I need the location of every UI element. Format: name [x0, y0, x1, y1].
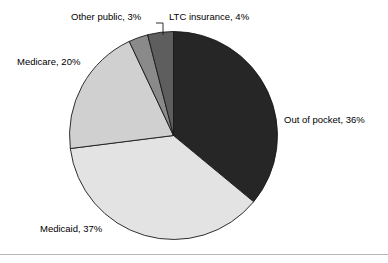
pie-label-ltc-insurance: LTC insurance, 4% [169, 11, 250, 22]
pie-label-out-of-pocket: Out of pocket, 36% [284, 114, 365, 125]
pie-chart-figure: Out of pocket, 36% Medicaid, 37% Medicar… [0, 0, 388, 263]
pie-label-medicaid: Medicaid, 37% [40, 223, 103, 234]
pie-label-other-public: Other public, 3% [71, 11, 142, 22]
pie-label-medicare: Medicare, 20% [17, 56, 81, 67]
pie-slices-group [70, 32, 278, 240]
bottom-divider [0, 254, 388, 255]
pie-chart-svg: Out of pocket, 36% Medicaid, 37% Medicar… [0, 0, 388, 263]
